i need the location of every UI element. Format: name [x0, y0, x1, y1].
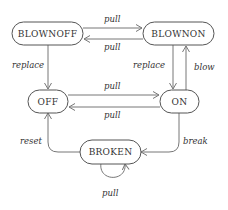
edge-blownon-to-on: replace	[133, 45, 173, 89]
edge-on-to-blownon: blow	[186, 46, 215, 90]
edge-label-pull: pull	[102, 188, 119, 198]
state-label: BLOWNON	[151, 29, 205, 39]
edge-label-pull: pull	[104, 110, 121, 120]
edge-label-reset: reset	[20, 136, 42, 146]
edge-blownoff-to-off: replace	[12, 45, 48, 89]
edge-on-to-off: pull	[69, 107, 160, 120]
edge-broken-self-loop: pull	[101, 163, 125, 198]
state-label: ON	[172, 97, 188, 107]
edge-label-blow: blow	[194, 62, 215, 72]
state-label: OFF	[38, 97, 59, 107]
state-diagram: pull pull replace replace blow pull pull…	[0, 0, 228, 210]
edge-label-replace: replace	[133, 60, 165, 70]
edge-label-pull: pull	[104, 81, 121, 91]
state-on: ON	[160, 90, 199, 113]
state-off: OFF	[28, 90, 68, 113]
state-label: BLOWNOFF	[18, 29, 77, 39]
edge-on-to-broken: break	[141, 112, 208, 152]
edge-off-to-on: pull	[68, 81, 159, 95]
edge-blownoff-to-blownon: pull	[83, 14, 142, 28]
state-blownoff: BLOWNOFF	[12, 22, 83, 45]
edge-label-replace: replace	[12, 60, 44, 70]
edge-blownon-to-blownoff: pull	[84, 39, 143, 52]
edge-label-pull: pull	[104, 42, 121, 52]
edge-label-break: break	[183, 136, 208, 146]
edge-broken-to-off: reset	[20, 113, 80, 152]
state-blownon: BLOWNON	[143, 22, 214, 45]
state-label: BROKEN	[89, 147, 133, 157]
edge-label-pull: pull	[104, 14, 121, 24]
state-broken: BROKEN	[80, 140, 141, 164]
